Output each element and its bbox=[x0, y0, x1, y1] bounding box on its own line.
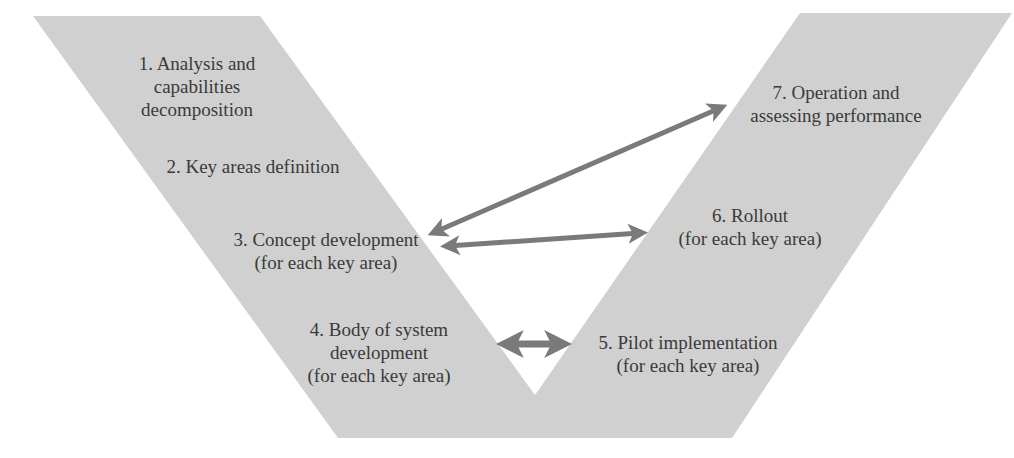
step-4-line-2: development bbox=[308, 341, 451, 364]
step-3-line-1: 3. Concept development bbox=[233, 228, 418, 251]
step-1-line-1: 1. Analysis and bbox=[139, 52, 256, 75]
step-6-line-2: (for each key area) bbox=[679, 227, 822, 250]
step-3-line-2: (for each key area) bbox=[233, 251, 418, 274]
step-3-concept-label: 3. Concept development (for each key are… bbox=[233, 228, 418, 274]
step-5-pilot-label: 5. Pilot implementation (for each key ar… bbox=[599, 331, 778, 377]
step-1-analysis-label: 1. Analysis and capabilities decompositi… bbox=[139, 52, 256, 121]
step-4-body-of-system-label: 4. Body of system development (for each … bbox=[308, 318, 451, 387]
step-7-line-2: assessing performance bbox=[750, 104, 921, 127]
step-2-line-1: 2. Key areas definition bbox=[166, 155, 339, 178]
step-5-line-2: (for each key area) bbox=[599, 354, 778, 377]
step-7-line-1: 7. Operation and bbox=[750, 81, 921, 104]
step-6-rollout-label: 6. Rollout (for each key area) bbox=[679, 204, 822, 250]
double-arrow-step-3-to-6 bbox=[448, 233, 640, 246]
step-1-line-2: capabilities bbox=[139, 75, 256, 98]
step-6-line-1: 6. Rollout bbox=[679, 204, 822, 227]
v-left-arm bbox=[33, 16, 535, 438]
step-1-line-3: decomposition bbox=[139, 98, 256, 121]
step-4-line-3: (for each key area) bbox=[308, 364, 451, 387]
step-7-operation-label: 7. Operation and assessing performance bbox=[750, 81, 921, 127]
step-5-line-1: 5. Pilot implementation bbox=[599, 331, 778, 354]
step-2-key-areas-label: 2. Key areas definition bbox=[166, 155, 339, 178]
step-4-line-1: 4. Body of system bbox=[308, 318, 451, 341]
